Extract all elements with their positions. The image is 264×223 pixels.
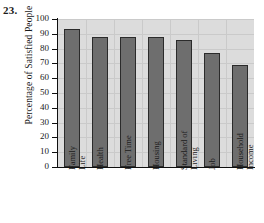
y-axis-tick	[52, 167, 57, 168]
y-axis-tick	[52, 63, 57, 64]
y-axis-tick-label: 40	[9, 102, 49, 112]
y-axis-tick-label: 70	[9, 57, 49, 67]
y-axis-tick-label: 10	[9, 146, 49, 156]
y-axis-tick	[52, 78, 57, 79]
x-axis-labels: FamilyLifeHealthFree TimeHousingStandard…	[58, 170, 254, 222]
y-axis-tick	[52, 93, 57, 94]
y-axis-tick-label: 0	[9, 161, 49, 171]
y-axis-tick-label: 100	[9, 13, 49, 23]
bar	[204, 53, 220, 167]
bar-chart-figure: 23. Percentage of Satisfied People 01020…	[0, 0, 264, 223]
y-axis-tick	[52, 19, 57, 20]
x-axis-label-line: Health	[96, 147, 106, 170]
y-axis-tick	[52, 49, 57, 50]
y-axis-tick	[52, 108, 57, 109]
y-axis-tick-label: 80	[9, 43, 49, 53]
y-axis-tick	[52, 137, 57, 138]
y-axis-tick	[52, 152, 57, 153]
y-axis-tick-label: 60	[9, 72, 49, 82]
x-axis-label-line: Free Time	[124, 135, 134, 170]
y-axis-tick-label: 50	[9, 87, 49, 97]
y-axis-tick	[52, 34, 57, 35]
x-axis-label-line: Living	[190, 147, 200, 170]
x-axis-label-line: Income	[246, 145, 256, 171]
y-axis-tick-label: 20	[9, 131, 49, 141]
y-axis-tick	[52, 123, 57, 124]
y-axis-tick-label: 30	[9, 117, 49, 127]
y-axis-tick-label: 90	[9, 28, 49, 38]
x-axis-label-line: Life	[78, 156, 88, 170]
x-axis-label-line: Job	[208, 158, 218, 170]
x-axis-label-line: Housing	[152, 141, 162, 170]
